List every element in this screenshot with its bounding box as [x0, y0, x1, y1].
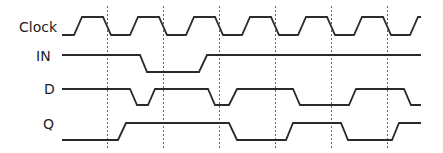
signal-label-in: IN: [36, 49, 51, 63]
signal-label-clock: Clock: [19, 20, 57, 34]
timing-diagram: Clock IN D Q: [0, 0, 443, 153]
clock-edge-guides: [108, 6, 388, 150]
waveform-canvas: [0, 0, 443, 153]
signal-waveforms: [62, 17, 421, 140]
waveform-clock: [62, 17, 421, 35]
signal-label-q: Q: [43, 117, 54, 131]
waveform-q: [62, 123, 421, 140]
waveform-in: [62, 55, 421, 72]
waveform-d: [62, 89, 421, 105]
signal-label-d: D: [44, 82, 55, 96]
